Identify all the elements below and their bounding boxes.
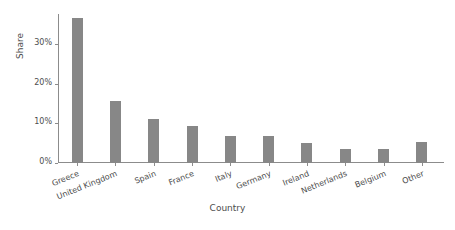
bar (340, 149, 351, 163)
y-tick-label: 20% (34, 78, 52, 87)
x-tick-mark (77, 163, 78, 166)
y-tick-label: 30% (34, 38, 52, 47)
y-tick-mark (55, 163, 58, 164)
bar (263, 136, 274, 163)
x-tick-mark (192, 163, 193, 166)
y-tick-label: 0% (39, 157, 52, 166)
bar (225, 136, 236, 163)
bar (72, 18, 83, 163)
bar (301, 143, 312, 163)
bar (378, 149, 389, 163)
x-tick-mark (384, 163, 385, 166)
y-axis-tick: 20% (0, 84, 58, 85)
bar (416, 142, 427, 163)
x-axis-label: Country (0, 203, 455, 213)
y-axis-tick: 30% (0, 44, 58, 45)
y-axis-tick: 10% (0, 123, 58, 124)
x-tick-mark (115, 163, 116, 166)
bar (187, 126, 198, 163)
x-tick-mark (307, 163, 308, 166)
y-axis-label: Share (13, 16, 27, 76)
y-axis-tick: 0% (0, 163, 58, 164)
bar (148, 119, 159, 163)
bar (110, 101, 121, 163)
x-tick-mark (269, 163, 270, 166)
x-tick-mark (230, 163, 231, 166)
x-tick-mark (422, 163, 423, 166)
x-tick-mark (345, 163, 346, 166)
bar-chart-figure: Share 0%10%20%30% GreeceUnited KingdomSp… (0, 0, 455, 230)
y-tick-label: 10% (34, 117, 52, 126)
x-tick-mark (154, 163, 155, 166)
